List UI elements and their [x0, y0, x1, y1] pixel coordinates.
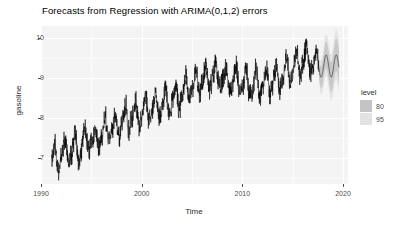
y-tick-mark: [38, 118, 41, 119]
legend-title: level: [361, 88, 384, 97]
legend-items: 8095: [360, 100, 384, 125]
x-tick-mark: [142, 184, 143, 187]
chart-title: Forecasts from Regression with ARIMA(0,1…: [42, 5, 268, 16]
forecast-chart: Forecasts from Regression with ARIMA(0,1…: [0, 0, 413, 228]
y-tick-mark: [38, 38, 41, 39]
x-tick-label: 2000: [122, 190, 162, 197]
x-tick-label: 2010: [222, 190, 262, 197]
x-axis-title: Time: [40, 207, 348, 216]
plot-panel: [41, 26, 348, 184]
legend-item[interactable]: 95: [360, 113, 384, 125]
historical-series-line: [51, 39, 318, 181]
x-tick-label: 1990: [21, 190, 61, 197]
legend-swatch: [360, 113, 372, 125]
data-series-layer: [41, 26, 348, 184]
legend-label: 95: [376, 116, 384, 123]
legend-key: [360, 100, 372, 112]
legend-key: [360, 113, 372, 125]
y-tick-mark: [38, 158, 41, 159]
x-tick-mark: [41, 184, 42, 187]
y-tick-mark: [38, 78, 41, 79]
legend-item[interactable]: 80: [360, 100, 384, 112]
legend-swatch: [360, 100, 372, 112]
legend-label: 80: [376, 103, 384, 110]
x-tick-mark: [343, 184, 344, 187]
x-tick-label: 2020: [323, 190, 363, 197]
x-tick-mark: [242, 184, 243, 187]
legend: level 8095: [360, 88, 384, 126]
